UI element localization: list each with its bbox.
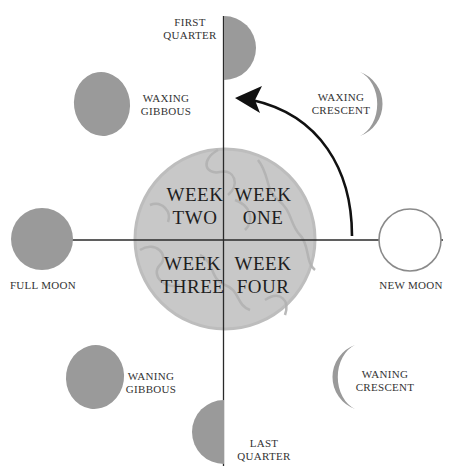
waxing-gibbous-moon-icon xyxy=(70,68,134,139)
new-moon-icon xyxy=(379,209,441,271)
waxing-crescent-line2: CRESCENT xyxy=(306,104,376,117)
full-moon-label: FULL MOON xyxy=(8,279,78,292)
waning-gibbous-line2: GIBBOUS xyxy=(121,383,181,396)
week-two-label: WEEK TWO xyxy=(165,183,225,229)
waxing-gibbous-label: WAXING GIBBOUS xyxy=(136,92,196,118)
week-three-line2: THREE xyxy=(155,275,230,298)
week-one-line1: WEEK xyxy=(233,183,293,206)
week-four-line1: WEEK xyxy=(233,252,293,275)
waning-gibbous-line1: WANING xyxy=(121,370,181,383)
waxing-gibbous-line2: GIBBOUS xyxy=(136,105,196,118)
first-quarter-line1: FIRST xyxy=(160,16,220,29)
first-quarter-moon-icon xyxy=(224,16,256,80)
waning-gibbous-label: WANING GIBBOUS xyxy=(121,370,181,396)
waning-crescent-line1: WANING xyxy=(350,368,420,381)
full-moon-icon xyxy=(11,208,73,270)
waning-crescent-label: WANING CRESCENT xyxy=(350,368,420,394)
last-quarter-line1: LAST xyxy=(234,437,294,450)
week-two-line1: WEEK xyxy=(165,183,225,206)
week-three-label: WEEK THREE xyxy=(155,252,230,298)
week-one-label: WEEK ONE xyxy=(233,183,293,229)
last-quarter-label: LAST QUARTER xyxy=(234,437,294,463)
new-moon-label: NEW MOON xyxy=(376,279,446,292)
waning-crescent-line2: CRESCENT xyxy=(350,381,420,394)
week-one-line2: ONE xyxy=(233,206,293,229)
week-four-label: WEEK FOUR xyxy=(233,252,293,298)
last-quarter-line2: QUARTER xyxy=(234,450,294,463)
new-moon-line1: NEW MOON xyxy=(376,279,446,292)
first-quarter-line2: QUARTER xyxy=(160,29,220,42)
week-two-line2: TWO xyxy=(165,206,225,229)
first-quarter-label: FIRST QUARTER xyxy=(160,16,220,42)
waning-gibbous-moon-icon xyxy=(62,341,128,412)
waxing-gibbous-line1: WAXING xyxy=(136,92,196,105)
week-three-line1: WEEK xyxy=(155,252,230,275)
full-moon-line1: FULL MOON xyxy=(8,279,78,292)
last-quarter-moon-icon xyxy=(192,400,224,464)
waxing-crescent-line1: WAXING xyxy=(306,91,376,104)
week-four-line2: FOUR xyxy=(233,275,293,298)
center-disc xyxy=(135,149,315,329)
moon-phases-diagram: WEEK TWO WEEK ONE WEEK THREE WEEK FOUR F… xyxy=(0,0,453,474)
diagram-artwork xyxy=(0,0,453,474)
waxing-crescent-label: WAXING CRESCENT xyxy=(306,91,376,117)
